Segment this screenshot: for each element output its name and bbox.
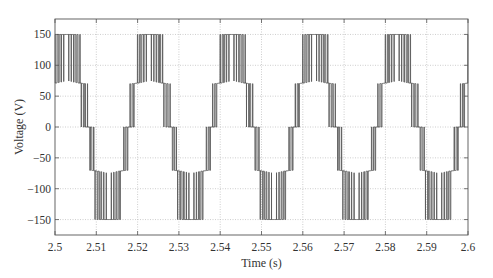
x-tick-label: 2.55 <box>251 241 271 253</box>
y-tick-label: −100 <box>27 183 51 195</box>
y-axis-tick-labels: 150100500−50−100−150 <box>27 28 51 225</box>
x-tick-label: 2.5 <box>48 241 63 253</box>
x-axis-title: Time (s) <box>241 256 282 270</box>
x-tick-label: 2.52 <box>128 241 148 253</box>
y-tick-label: 150 <box>34 28 52 40</box>
y-tick-label: 100 <box>34 59 52 71</box>
voltage-time-chart: 2.52.512.522.532.542.552.562.572.582.592… <box>0 0 493 278</box>
x-tick-label: 2.57 <box>334 241 354 253</box>
x-tick-label: 2.59 <box>417 241 437 253</box>
x-tick-label: 2.56 <box>293 241 313 253</box>
x-tick-label: 2.51 <box>86 241 106 253</box>
x-tick-label: 2.6 <box>461 241 476 253</box>
x-tick-label: 2.53 <box>169 241 189 253</box>
y-tick-label: −50 <box>33 152 51 164</box>
x-axis-tick-labels: 2.52.512.522.532.542.552.562.572.582.592… <box>48 241 476 253</box>
x-tick-label: 2.58 <box>375 241 395 253</box>
y-tick-label: −150 <box>27 214 51 226</box>
y-tick-label: 0 <box>45 121 51 133</box>
x-tick-label: 2.54 <box>210 241 230 253</box>
y-axis-title: Voltage (V) <box>12 99 26 155</box>
y-tick-label: 50 <box>40 90 52 102</box>
